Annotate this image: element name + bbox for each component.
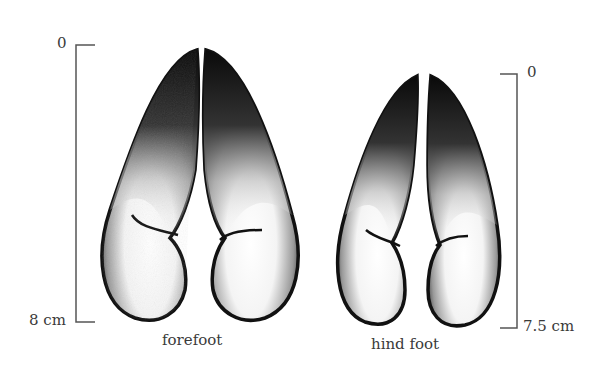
forefoot-left-claw bbox=[102, 50, 198, 320]
forefoot-scale-bottom-label: 8 cm bbox=[29, 311, 66, 329]
hoof-print-illustration bbox=[0, 0, 606, 371]
hind-foot-scale-top-label: 0 bbox=[527, 63, 537, 81]
hind-foot-scale-bottom-label: 7.5 cm bbox=[523, 317, 574, 335]
hind-foot-caption: hind foot bbox=[371, 335, 439, 353]
hind-foot-scale-bracket bbox=[500, 74, 517, 328]
hind-foot-left-claw bbox=[338, 76, 418, 324]
forefoot-scale-bracket bbox=[76, 45, 95, 322]
forefoot-scale-top-label: 0 bbox=[57, 34, 67, 52]
forefoot-right-claw bbox=[204, 50, 299, 320]
hind-foot-right-claw bbox=[428, 76, 500, 326]
forefoot-caption: forefoot bbox=[162, 331, 222, 349]
